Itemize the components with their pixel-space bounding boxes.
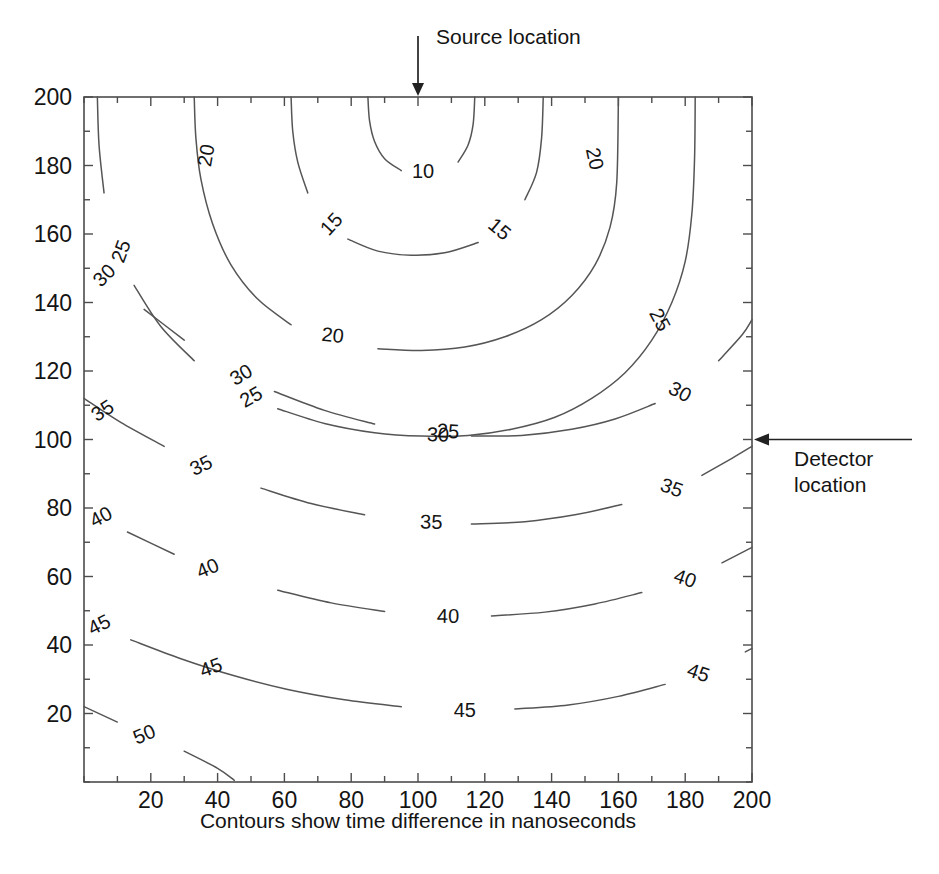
contour-label: 35 (87, 395, 118, 426)
contour-line (745, 648, 752, 651)
contour-label: 10 (412, 160, 434, 182)
x-tick-label: 180 (666, 787, 704, 813)
contour-line (194, 97, 291, 325)
contour-line (97, 97, 104, 193)
contour-line (278, 97, 695, 436)
contour-figure: 2040608010012014016018020020406080100120… (0, 0, 939, 874)
contour-line (719, 320, 752, 361)
contour-label: 40 (193, 553, 222, 582)
contour-line (144, 309, 184, 340)
contour-plot-svg: 2040608010012014016018020020406080100120… (0, 0, 939, 874)
contour-label: 50 (130, 720, 159, 749)
y-tick-label: 140 (34, 290, 72, 316)
contour-line (491, 593, 641, 616)
contour-line (368, 97, 401, 171)
contour-line (131, 640, 402, 707)
contour-label: 45 (684, 658, 712, 686)
detector-arrow-head (754, 434, 769, 446)
y-tick-label: 120 (34, 358, 72, 384)
contour-label: 45 (84, 610, 114, 640)
contour-line (274, 392, 374, 425)
contour-line (702, 446, 752, 475)
detector-location-label-line1: Detector (794, 447, 873, 470)
contour-line (515, 684, 665, 709)
contour-label: 35 (658, 473, 686, 501)
y-tick-label: 40 (46, 632, 72, 658)
detector-location-label-line2: location (794, 473, 866, 496)
contour-label: 30 (665, 377, 695, 407)
contour-label: 15 (316, 208, 347, 239)
contour-label: 45 (197, 653, 225, 681)
y-tick-label: 180 (34, 153, 72, 179)
contour-label: 40 (671, 564, 699, 592)
axis-ticks (84, 97, 752, 782)
y-tick-label: 60 (46, 564, 72, 590)
contour-label: 25 (107, 237, 135, 265)
y-tick-label: 80 (46, 495, 72, 521)
source-arrow-head (412, 83, 424, 96)
contour-label: 40 (437, 605, 460, 627)
source-location-label: Source location (436, 25, 581, 48)
contour-line (184, 751, 234, 780)
contour-label: 30 (88, 259, 119, 290)
contour-line (722, 547, 752, 562)
contour-label: 40 (86, 502, 116, 532)
y-tick-label: 100 (34, 427, 72, 453)
contour-label: 20 (321, 323, 345, 347)
contour-line (471, 505, 621, 525)
annotations: Source locationDetectorlocation (412, 25, 912, 496)
contour-label: 30 (427, 423, 450, 446)
contour-line (127, 532, 174, 554)
contour-line (525, 97, 543, 200)
contour-line (278, 590, 385, 611)
axis-tick-labels: 2040608010012014016018020020406080100120… (34, 84, 772, 813)
plot-frame (84, 97, 752, 782)
contour-line (261, 488, 365, 515)
contour-line (458, 97, 475, 162)
x-axis-title: Contours show time difference in nanosec… (200, 809, 636, 832)
contour-label: 15 (484, 213, 515, 244)
y-tick-label: 20 (46, 701, 72, 727)
contour-label: 45 (454, 699, 476, 721)
x-tick-label: 20 (138, 787, 164, 813)
y-tick-label: 160 (34, 221, 72, 247)
contour-label: 20 (582, 145, 608, 171)
contour-label: 25 (645, 305, 675, 335)
contour-line (348, 239, 478, 255)
contour-line (84, 707, 117, 722)
contour-lines (84, 97, 752, 780)
contour-label: 35 (420, 511, 443, 533)
y-tick-label: 200 (34, 84, 72, 110)
contour-label: 35 (186, 450, 216, 480)
x-tick-label: 200 (733, 787, 771, 813)
contour-label: 20 (193, 142, 219, 168)
contour-line (291, 97, 308, 193)
contour-line (134, 285, 194, 360)
